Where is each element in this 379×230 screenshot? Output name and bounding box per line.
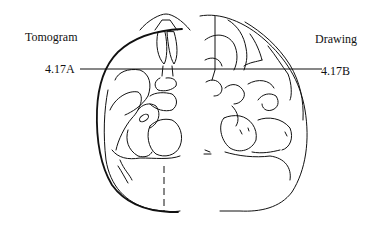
tomogram-outline — [97, 14, 190, 212]
skull-diagram — [0, 0, 379, 230]
drawing-outline — [200, 15, 307, 211]
